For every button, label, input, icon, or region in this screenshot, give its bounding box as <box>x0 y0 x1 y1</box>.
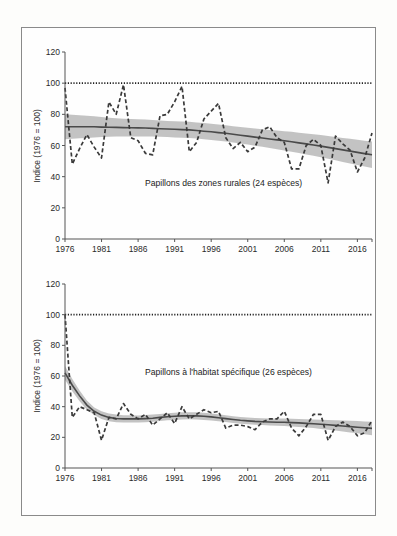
y-tick-label: 20 <box>51 432 61 442</box>
x-tick-label: 1981 <box>92 244 111 254</box>
y-tick-label: 120 <box>46 279 60 289</box>
axes: 0204060801001201976198119861991199620012… <box>46 279 372 483</box>
chart-panel-rural-butterflies: 0204060801001201976198119861991199620012… <box>32 47 372 254</box>
x-tick-label: 2011 <box>312 473 331 483</box>
y-tick-label: 60 <box>51 141 61 151</box>
x-tick-label: 1976 <box>56 244 75 254</box>
confidence-band-area <box>65 114 372 168</box>
x-tick-label: 1976 <box>56 473 75 483</box>
y-tick-label: 120 <box>46 47 60 57</box>
y-tick-label: 80 <box>51 109 61 119</box>
x-tick-label: 2006 <box>275 244 294 254</box>
y-tick-label: 60 <box>51 371 61 381</box>
y-tick-label: 0 <box>55 234 60 244</box>
x-tick-label: 1981 <box>92 473 111 483</box>
x-tick-label: 2006 <box>275 473 294 483</box>
x-tick-label: 1991 <box>165 244 184 254</box>
y-tick-label: 0 <box>55 463 60 473</box>
confidence-band <box>65 114 372 168</box>
series-label: Papillons des zones rurales (24 espèces) <box>145 178 302 188</box>
x-tick-label: 2016 <box>348 244 367 254</box>
y-tick-label: 100 <box>46 78 60 88</box>
y-tick-label: 100 <box>46 310 60 320</box>
x-tick-label: 2001 <box>238 244 257 254</box>
y-tick-label: 20 <box>51 203 61 213</box>
y-axis-title: Indice (1976 = 100) <box>32 339 42 413</box>
y-tick-label: 80 <box>51 340 61 350</box>
x-tick-label: 1986 <box>129 244 148 254</box>
x-tick-label: 2016 <box>348 473 367 483</box>
series-label: Papillons à l'habitat spécifique (26 esp… <box>145 367 312 377</box>
chart-panel-habitat-specific-butterflies: 0204060801001201976198119861991199620012… <box>32 279 372 483</box>
y-axis-title: Indice (1976 = 100) <box>32 109 42 183</box>
x-tick-label: 2011 <box>312 244 331 254</box>
x-tick-label: 2001 <box>238 473 257 483</box>
x-tick-label: 1996 <box>202 473 221 483</box>
y-tick-label: 40 <box>51 172 61 182</box>
x-tick-label: 1986 <box>129 473 148 483</box>
x-tick-label: 1991 <box>165 473 184 483</box>
y-tick-label: 40 <box>51 402 61 412</box>
x-tick-label: 1996 <box>202 244 221 254</box>
figure-canvas: 0204060801001201976198119861991199620012… <box>0 0 397 536</box>
